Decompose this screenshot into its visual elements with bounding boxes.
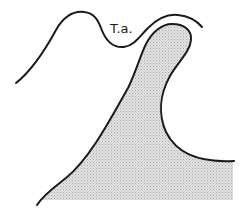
label-ta: T.a. [109,21,133,36]
shaded-mass [40,24,233,200]
diagram-canvas: T.a. [0,0,247,218]
